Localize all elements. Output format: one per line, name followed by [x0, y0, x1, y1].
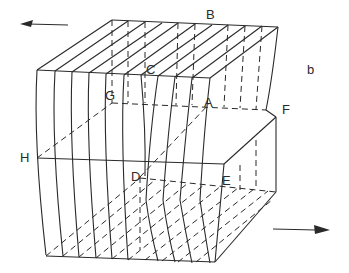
- upper-block: [37, 20, 278, 110]
- label-a-point: A: [204, 95, 213, 110]
- label-h-point: H: [20, 150, 29, 165]
- top-shear-arrow: [20, 20, 68, 27]
- front-bedding-lines: [36, 70, 210, 263]
- label-b-point: B: [206, 7, 215, 22]
- label-e-point: E: [222, 173, 231, 188]
- label-c-point: C: [146, 62, 155, 77]
- label-f-point: F: [282, 102, 290, 117]
- bottom-shear-arrow: [273, 225, 330, 234]
- block-diagram: B C G A F H D E b: [0, 0, 349, 273]
- label-d-point: D: [131, 169, 140, 184]
- top-bedding-lines: [55, 21, 262, 78]
- panel-label: b: [307, 62, 314, 77]
- label-g-point: G: [105, 88, 115, 103]
